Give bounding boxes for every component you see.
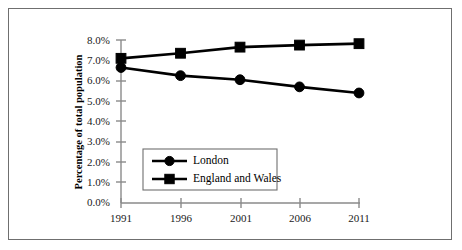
data-point-circle xyxy=(176,71,186,81)
y-tick-label-7: 7.0% xyxy=(87,54,110,66)
data-point-square xyxy=(354,39,364,49)
x-tick-label-2011: 2011 xyxy=(348,212,370,224)
data-point-circle xyxy=(235,75,245,85)
data-point-circle xyxy=(295,82,305,92)
y-tick-label-1: 1.0% xyxy=(87,176,110,188)
y-tick-label-8: 8.0% xyxy=(87,34,110,46)
data-point-square xyxy=(116,53,126,63)
legend-square-marker-icon xyxy=(165,174,174,183)
data-point-circle xyxy=(354,88,364,98)
y-tick-label-0: 0.0% xyxy=(87,196,110,208)
x-tick-label-1991: 1991 xyxy=(110,212,132,224)
y-tick-label-4: 4.0% xyxy=(87,115,110,127)
data-point-circle xyxy=(116,63,126,73)
data-point-square xyxy=(235,42,245,52)
y-tick-label-6: 6.0% xyxy=(87,74,110,86)
y-axis-title: Percentage of total population xyxy=(73,54,84,189)
line-chart-canvas: Percentage of total population 8.0% 7.0%… xyxy=(0,0,462,250)
y-tick-label-2: 2.0% xyxy=(87,156,110,168)
series-england-and-wales xyxy=(116,39,364,63)
y-tick-label-5: 5.0% xyxy=(87,95,110,107)
y-tick-label-3: 3.0% xyxy=(87,135,110,147)
x-tick-label-2006: 2006 xyxy=(289,212,312,224)
series-layer xyxy=(116,39,364,98)
chart-legend: London England and Wales xyxy=(143,149,282,190)
legend-item-england-and-wales[interactable]: England and Wales xyxy=(152,172,282,185)
data-point-square xyxy=(295,40,305,50)
series-london xyxy=(116,63,364,98)
data-point-square xyxy=(176,48,186,58)
chart-figure: Percentage of total population 8.0% 7.0%… xyxy=(0,0,462,250)
legend-label-london: London xyxy=(193,154,229,166)
legend-circle-marker-icon xyxy=(165,156,174,165)
x-tick-label-1996: 1996 xyxy=(170,212,193,224)
legend-label-england-and-wales: England and Wales xyxy=(193,172,282,185)
x-tick-label-2001: 2001 xyxy=(230,212,252,224)
